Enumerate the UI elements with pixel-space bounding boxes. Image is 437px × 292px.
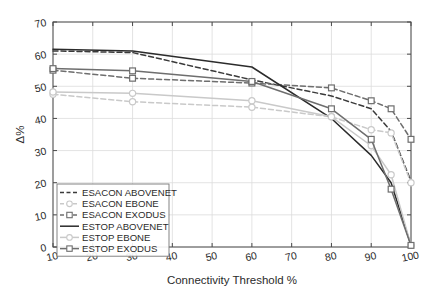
- legend-label: ESTOP EXODUS: [82, 243, 157, 254]
- legend-label: ESACON ABOVENET: [82, 187, 177, 198]
- data-point-marker: [408, 180, 414, 186]
- legend-label: ESTOP ABOVENET: [82, 221, 169, 232]
- data-point-marker: [249, 104, 255, 110]
- y-axis-title: Δ%: [14, 126, 26, 144]
- chart-legend[interactable]: ESACON ABOVENETESACON EBONEESACON EXODUS…: [57, 184, 177, 256]
- data-point-marker: [328, 114, 334, 120]
- data-point-marker: [368, 98, 374, 104]
- legend-marker-sample: [67, 201, 73, 207]
- data-point-marker: [249, 98, 255, 104]
- line-chart: 102030405060708090100010203040506070 Con…: [0, 0, 437, 292]
- data-point-marker: [50, 89, 56, 95]
- data-point-marker: [129, 99, 135, 105]
- data-point-marker: [388, 130, 394, 136]
- data-point-marker: [368, 127, 374, 133]
- legend-label: ESACON EXODUS: [82, 209, 166, 220]
- data-point-marker: [329, 106, 335, 112]
- legend-marker-sample: [67, 246, 72, 251]
- data-point-marker: [408, 242, 414, 248]
- data-point-marker: [50, 66, 56, 72]
- data-point-marker: [130, 75, 136, 81]
- legend-marker-sample: [67, 212, 72, 217]
- data-point-marker: [388, 186, 394, 192]
- legend-marker-sample: [67, 235, 73, 241]
- data-point-marker: [408, 136, 414, 142]
- data-point-marker: [249, 79, 255, 85]
- chart-figure: 102030405060708090100010203040506070 Con…: [0, 0, 437, 292]
- legend-label: ESACON EBONE: [82, 198, 159, 209]
- x-axis-title: Connectivity Threshold %: [167, 274, 297, 286]
- data-point-marker: [388, 172, 394, 178]
- data-point-marker: [368, 136, 374, 142]
- data-point-marker: [129, 90, 135, 96]
- legend-label: ESTOP EBONE: [82, 232, 150, 243]
- data-point-marker: [388, 106, 394, 112]
- data-point-marker: [329, 85, 335, 91]
- data-point-marker: [130, 68, 136, 74]
